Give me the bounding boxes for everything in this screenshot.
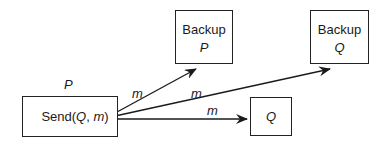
edge-label-q: m [207,103,218,118]
send-box: Send(Q, m) [22,96,118,137]
send-call-text: Send(Q, m) [33,109,117,124]
send-close-paren: ) [104,109,108,124]
sender-process-label: P [64,77,73,92]
edge-label-backup-q: m [191,86,202,101]
backup-p-title: Backup [176,22,232,37]
backup-q-title: Backup [311,22,368,37]
backup-p-process: P [176,40,232,55]
edge-label-backup-p: m [132,86,143,101]
backup-q-process: Q [311,40,368,55]
receiver-q-box: Q [250,97,292,136]
send-arg-msg: m [93,109,104,124]
backup-q-box: Backup Q [310,10,369,64]
arrow-to-backup-p [106,69,196,118]
backup-p-box: Backup P [175,10,233,64]
send-arg-dest: Q [76,109,86,124]
receiver-q-process: Q [251,109,291,124]
send-fn-name: Send( [41,109,76,124]
